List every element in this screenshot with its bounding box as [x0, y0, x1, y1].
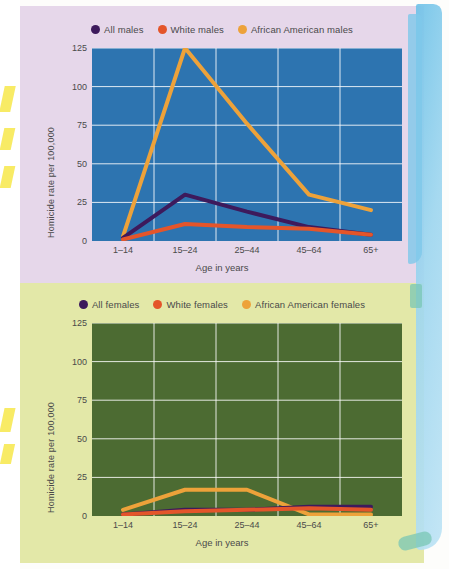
x-tick-label: 65+: [363, 245, 378, 255]
legend-label-all-males: All males: [104, 24, 143, 35]
legend-label-all-females: All females: [92, 299, 140, 310]
legend-item-african-american-females: African American females: [242, 299, 365, 310]
y-tick-label: 125: [59, 43, 87, 53]
x-tick-label: 25–44: [234, 245, 259, 255]
plot-area-males: [92, 48, 402, 241]
series-line-white-males: [123, 224, 371, 239]
series-line-african-american-males: [123, 48, 371, 236]
x-axis-title-males: Age in years: [20, 262, 424, 273]
legend-swatch-white-males: [158, 25, 167, 34]
legend-item-white-females: White females: [153, 299, 228, 310]
y-tick-label: 25: [59, 472, 87, 482]
y-axis-title-females: Homicide rate per 100,000: [46, 402, 56, 513]
legend-swatch-white-females: [153, 300, 162, 309]
line-chart-males: [92, 48, 402, 241]
legend-item-all-males: All males: [91, 24, 143, 35]
chart-panel-females: All females White females African Americ…: [20, 283, 424, 563]
legend-males: All males White males African American m…: [20, 24, 424, 35]
line-chart-females: [92, 323, 402, 516]
x-tick-label: 45–64: [296, 520, 321, 530]
y-tick-label: 100: [59, 82, 87, 92]
x-tick-label: 65+: [363, 520, 378, 530]
plot-background-males: [92, 48, 402, 241]
x-tick-label: 1–14: [113, 245, 133, 255]
y-tick-label: 0: [59, 511, 87, 521]
figure-page: All males White males African American m…: [0, 0, 449, 569]
x-tick-label: 25–44: [234, 520, 259, 530]
y-tick-label: 75: [59, 395, 87, 405]
page-edge-artifact-inner: [408, 14, 422, 264]
x-tick-label: 15–24: [172, 520, 197, 530]
x-tick-label: 45–64: [296, 245, 321, 255]
y-tick-label: 50: [59, 434, 87, 444]
y-tick-label: 75: [59, 120, 87, 130]
plot-area-females: [92, 323, 402, 516]
plot-background-females: [92, 323, 402, 516]
y-tick-label: 100: [59, 357, 87, 367]
legend-females: All females White females African Americ…: [20, 299, 424, 310]
legend-label-african-american-males: African American males: [251, 24, 353, 35]
x-axis-title-females: Age in years: [20, 537, 424, 548]
legend-swatch-all-males: [91, 25, 100, 34]
y-tick-label: 125: [59, 318, 87, 328]
legend-label-white-males: White males: [171, 24, 224, 35]
y-tick-label: 50: [59, 159, 87, 169]
legend-swatch-all-females: [79, 300, 88, 309]
legend-swatch-african-american-males: [238, 25, 247, 34]
legend-swatch-african-american-females: [242, 300, 251, 309]
legend-label-african-american-females: African American females: [255, 299, 365, 310]
legend-label-white-females: White females: [166, 299, 228, 310]
chart-panel-males: All males White males African American m…: [20, 6, 424, 283]
y-axis-title-males: Homicide rate per 100,000: [46, 127, 56, 238]
y-tick-label: 0: [59, 236, 87, 246]
page-corner-artifact: [410, 284, 422, 308]
x-tick-label: 15–24: [172, 245, 197, 255]
x-tick-label: 1–14: [113, 520, 133, 530]
y-tick-label: 25: [59, 197, 87, 207]
legend-item-all-females: All females: [79, 299, 140, 310]
legend-item-white-males: White males: [158, 24, 224, 35]
legend-item-african-american-males: African American males: [238, 24, 353, 35]
